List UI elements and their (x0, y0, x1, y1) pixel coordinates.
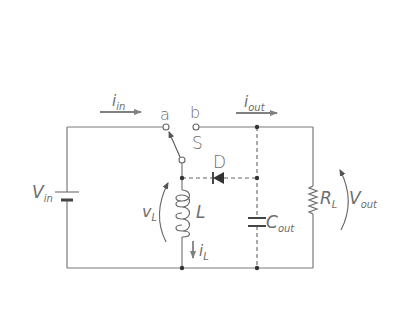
v-L-arrow (159, 183, 168, 242)
label-v-in: Vin (32, 184, 53, 201)
label-diode: D (213, 154, 226, 171)
label-resistor: RL (320, 190, 337, 207)
diode-symbol (213, 172, 224, 184)
label-terminal-b: b (190, 105, 200, 121)
capacitor-symbol (248, 218, 266, 226)
label-v-L: vL (142, 204, 157, 220)
label-i-L: iL (199, 244, 209, 259)
label-i-out: iout (244, 95, 265, 110)
label-capacitor: Cout (266, 214, 294, 231)
label-inductor: L (196, 204, 205, 221)
switch-arm (169, 132, 180, 157)
terminal-a (163, 124, 169, 130)
label-i-in: iin (112, 94, 125, 109)
label-terminal-a: a (160, 107, 170, 123)
switch-pivot (179, 157, 185, 163)
battery-symbol (55, 192, 79, 200)
v-out-arrow (340, 170, 348, 230)
terminal-b (193, 124, 199, 130)
label-v-out: Vout (349, 190, 377, 207)
label-switch: S (192, 135, 203, 152)
inductor-symbol (176, 190, 190, 237)
circuit-diagram (0, 0, 408, 318)
resistor-symbol (309, 186, 317, 214)
